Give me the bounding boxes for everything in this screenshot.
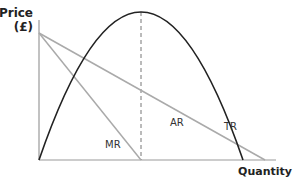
ar-curve	[39, 33, 265, 160]
y-axis-label-currency: (£)	[14, 20, 33, 34]
tr-label: TR	[223, 121, 237, 132]
x-axis-label-quantity: Quantity	[238, 165, 292, 178]
mr-label: MR	[105, 139, 121, 150]
y-axis-label-price: Price	[0, 6, 33, 20]
ar-label: AR	[170, 117, 184, 128]
mr-curve	[39, 33, 141, 160]
revenue-diagram: Price (£) Quantity TR AR MR	[0, 0, 293, 185]
